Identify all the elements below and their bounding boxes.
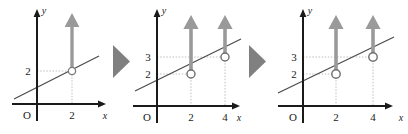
panel-3-plot: 2 3 2 4 O x y xyxy=(272,0,408,134)
x-axis-arrowhead-icon xyxy=(232,103,240,110)
origin-label: O xyxy=(289,111,297,123)
panel-2: 2 3 2 4 O x y xyxy=(133,0,245,134)
x-tick-label-2: 2 xyxy=(188,111,194,123)
y-tick-label-3: 3 xyxy=(291,51,297,63)
open-point-marker xyxy=(187,70,195,78)
y-tick-label-2: 2 xyxy=(291,68,297,80)
panel-3: 2 3 2 4 O x y xyxy=(272,0,408,134)
y-axis-label: y xyxy=(41,5,47,16)
x-axis-3 xyxy=(278,103,393,110)
separator-arrow-1 xyxy=(108,0,136,134)
x-axis-arrowhead-icon xyxy=(385,103,393,110)
y-tick-label-2: 2 xyxy=(25,65,31,77)
x-tick-label-2: 2 xyxy=(69,109,75,121)
x-axis-label: x xyxy=(398,112,404,123)
figure-root: 2 2 O x y xyxy=(0,0,408,134)
x-tick-label-2: 2 xyxy=(333,111,339,123)
x-axis-label: x xyxy=(236,112,242,123)
panel-1: 2 2 O x y xyxy=(0,0,112,134)
separator-arrow-2 xyxy=(244,0,272,134)
open-point-marker xyxy=(332,70,340,78)
ray-arrowhead-icon xyxy=(328,15,343,29)
y-axis-arrowhead-icon xyxy=(34,9,41,17)
ray-up-x2-panel3 xyxy=(328,15,343,74)
ray-up-x4-panel2 xyxy=(217,15,232,57)
ray-arrowhead-icon xyxy=(365,15,380,29)
y-axis-arrowhead-icon xyxy=(154,9,161,17)
x-axis-1 xyxy=(12,101,106,108)
y-axis-arrowhead-icon xyxy=(300,9,307,17)
y-axis-label: y xyxy=(161,5,167,16)
ray-up-x2-panel2 xyxy=(183,15,198,74)
guide-lines-1 xyxy=(37,71,72,104)
panel-1-plot: 2 2 O x y xyxy=(0,0,112,134)
x-axis-label: x xyxy=(102,110,108,121)
ray-up-x4-panel3 xyxy=(365,15,380,57)
ray-arrowhead-icon xyxy=(183,15,198,29)
right-triangle-icon xyxy=(113,45,130,78)
x-axis-arrowhead-icon xyxy=(98,101,106,108)
right-triangle-icon xyxy=(249,45,266,78)
x-tick-label-4: 4 xyxy=(222,111,228,123)
open-point-marker xyxy=(221,53,229,61)
open-point-marker xyxy=(68,67,75,74)
function-line-1 xyxy=(14,56,99,99)
x-axis-2 xyxy=(133,103,240,110)
panel-2-plot: 2 3 2 4 O x y xyxy=(133,0,245,134)
y-tick-label-3: 3 xyxy=(145,51,151,63)
ray-arrowhead-icon xyxy=(65,13,80,27)
ray-up-x2-panel1 xyxy=(65,13,80,71)
origin-label: O xyxy=(23,109,31,121)
y-tick-label-2: 2 xyxy=(145,68,151,80)
ray-arrowhead-icon xyxy=(217,15,232,29)
open-point-marker xyxy=(369,53,377,61)
origin-label: O xyxy=(143,111,151,123)
y-axis-label: y xyxy=(307,5,313,16)
x-tick-label-4: 4 xyxy=(370,111,376,123)
